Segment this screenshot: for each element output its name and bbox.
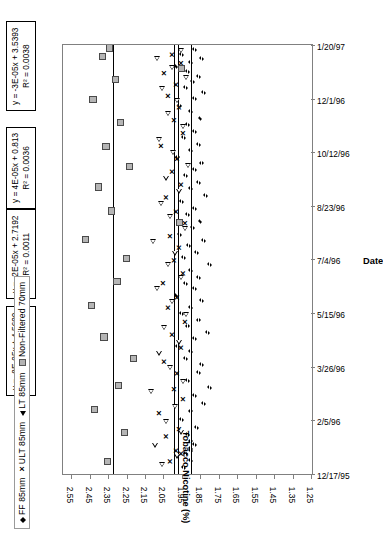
- data-point-diamond: [184, 243, 188, 247]
- data-point-square: [82, 236, 89, 243]
- x-axis-tick-label: 12/1/96: [317, 96, 345, 106]
- legend-item-ult-85mm: ×ULT 85mm: [17, 422, 27, 472]
- x-axis-tick-label: 8/23/96: [317, 203, 345, 213]
- data-point-diamond: [196, 219, 200, 223]
- x-axis-tick-mark: [311, 260, 315, 261]
- data-point-diamond: [197, 56, 201, 60]
- data-point-diamond: [190, 47, 194, 51]
- data-point-square: [113, 278, 120, 285]
- data-point-diamond: [194, 370, 198, 374]
- y-axis-tick-mark: [311, 475, 312, 479]
- diamond-marker-icon: [17, 517, 23, 523]
- data-point-diamond: [179, 255, 183, 259]
- data-point-square: [91, 406, 98, 413]
- data-point-triangle: [172, 404, 178, 409]
- data-point-triangle: [180, 124, 186, 129]
- data-point-square: [108, 207, 115, 214]
- y-axis-tick-label: 1.65: [231, 481, 241, 509]
- data-point-triangle: [178, 275, 184, 280]
- data-point-diamond: [196, 116, 200, 120]
- data-point-triangle: [169, 299, 175, 304]
- x-axis-tick-label: 7/4/96: [317, 257, 340, 267]
- x-axis-title: Date: [363, 257, 383, 267]
- x-marker-icon: ×: [18, 466, 27, 471]
- data-point-diamond: [181, 173, 185, 177]
- y-axis-tick-label: 1.35: [287, 481, 297, 509]
- data-point-triangle: [176, 340, 182, 345]
- data-point-triangle: [180, 379, 186, 384]
- square-marker-icon: [19, 359, 27, 367]
- y-axis-tick-mark: [71, 475, 72, 479]
- data-point-diamond: [186, 109, 190, 113]
- data-point-triangle: [170, 150, 176, 155]
- y-axis-tick-label: 1.45: [268, 481, 278, 509]
- data-point-diamond: [183, 212, 187, 216]
- trendline-lt-85mm: [174, 45, 175, 474]
- data-point-diamond: [201, 193, 205, 197]
- y-axis-tick-label: 2.35: [102, 481, 112, 509]
- y-axis-tick-mark: [237, 475, 238, 479]
- data-point-diamond: [190, 129, 194, 133]
- x-axis-tick-label: 5/15/96: [317, 310, 345, 320]
- data-point-square: [130, 355, 137, 362]
- x-axis-tick-mark: [311, 206, 315, 207]
- data-point-triangle: [174, 98, 180, 103]
- data-point-triangle: [163, 419, 169, 424]
- data-point-diamond: [190, 96, 194, 100]
- data-point-diamond: [186, 305, 190, 309]
- x-axis-tick-label: 10/12/96: [317, 149, 350, 159]
- data-point-triangle: [165, 262, 171, 267]
- y-axis-tick-mark: [200, 475, 201, 479]
- y-axis-tick-label: 2.45: [84, 481, 94, 509]
- data-point-diamond: [186, 409, 190, 413]
- data-point-diamond: [194, 318, 198, 322]
- data-point-square: [102, 143, 109, 150]
- data-point-triangle: [174, 454, 180, 459]
- data-point-triangle: [161, 325, 167, 330]
- data-point-diamond: [205, 262, 209, 266]
- r-squared-text: R² = 0.0038: [21, 28, 32, 106]
- x-axis-tick-label: 2/5/96: [317, 417, 340, 427]
- y-axis-tick-label: 1.85: [194, 481, 204, 509]
- data-point-square: [117, 119, 124, 126]
- data-point-diamond: [197, 298, 201, 302]
- legend-item-ff-85mm: FF 85mm: [17, 478, 27, 523]
- data-point-diamond: [186, 186, 190, 190]
- y-axis-tick-label: 1.75: [213, 481, 223, 509]
- data-point-triangle: [167, 365, 173, 370]
- y-axis-tick-mark: [145, 475, 146, 479]
- x-axis-tick-label: 3/26/96: [317, 364, 345, 374]
- data-point-square: [121, 429, 128, 436]
- data-point-square: [126, 163, 133, 170]
- data-point-triangle: [150, 239, 156, 244]
- x-axis-tick-mark: [311, 367, 315, 368]
- legend-item-non-filtered-70mm: Non-Filtered 70mm: [17, 282, 27, 367]
- data-point-square: [100, 333, 107, 340]
- data-point-triangle: [158, 201, 164, 206]
- x-axis-tick-mark: [311, 99, 315, 100]
- data-point-diamond: [186, 60, 190, 64]
- data-point-triangle: [169, 65, 175, 70]
- data-point-diamond: [181, 85, 185, 89]
- x-axis-tick-label: 12/17/95: [317, 471, 350, 481]
- plot-area: ×××××××××××××××××××××××××××××××××××: [62, 44, 313, 475]
- data-point-diamond: [205, 385, 209, 389]
- y-axis-tick-mark: [256, 475, 257, 479]
- x-axis-tick-mark: [311, 474, 315, 475]
- data-point-diamond: [199, 90, 203, 94]
- data-point-triangle: [165, 111, 171, 116]
- data-point-triangle: [176, 189, 182, 194]
- data-point-square: [178, 65, 185, 72]
- trendline-non-filtered-70mm: [113, 45, 114, 474]
- y-axis-tick-mark: [127, 475, 128, 479]
- data-point-square: [89, 96, 96, 103]
- equation-box-non-filtered: y = -3E-05x + 3.5393 R² = 0.0038: [6, 22, 36, 112]
- legend-item-lt-85mm: LT 85mm: [17, 372, 27, 415]
- data-point-triangle: [152, 443, 158, 448]
- x-axis-tick-mark: [311, 420, 315, 421]
- data-point-triangle: [163, 176, 169, 181]
- data-point-triangle: [172, 251, 178, 256]
- data-point-triangle: [185, 163, 191, 168]
- data-point-square: [123, 255, 130, 262]
